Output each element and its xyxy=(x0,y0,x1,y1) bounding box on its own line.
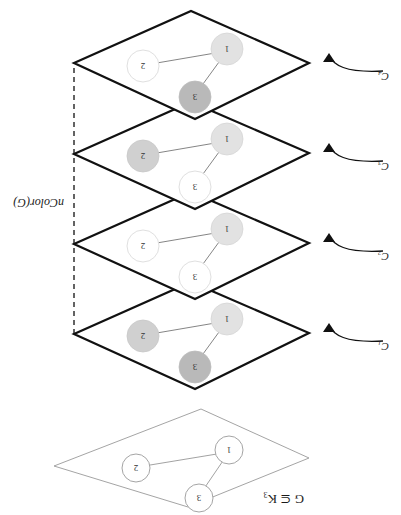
layer-C3-node-2-label: 2 xyxy=(141,151,146,161)
layer-C3-node-1-label: 1 xyxy=(225,134,230,144)
layer-C2: 3 1 2 xyxy=(74,192,383,299)
layer-C2-arrow-shaft xyxy=(329,235,383,251)
ncolor-bracket-label: nColor(G) xyxy=(13,195,64,210)
layer-C3-node-3-label: 3 xyxy=(192,182,197,192)
layer-C1-node-1-label: 1 xyxy=(225,314,230,324)
layer-C3: 3 1 2 xyxy=(74,102,383,209)
figure-canvas: 3 1 2 3 1 2 3 xyxy=(0,0,401,515)
plane-G-node-2-label: 2 xyxy=(134,463,139,473)
layer-C3-arrow-head xyxy=(323,143,335,152)
layer-C1-node-2-label: 2 xyxy=(141,331,146,341)
graph-title-label: G ⊆ K₃ xyxy=(263,491,304,507)
layer-C1-label: C₁ xyxy=(378,341,389,353)
layer-C2-label: C₂ xyxy=(378,251,389,263)
figure-svg: 3 1 2 3 1 2 3 xyxy=(0,0,401,515)
layer-C1-arrow-shaft xyxy=(329,325,383,341)
plane-G-node-1-label: 1 xyxy=(227,445,232,455)
layer-C4-node-3-label: 3 xyxy=(192,92,197,102)
layer-C2-node-1-label: 1 xyxy=(225,224,230,234)
layer-C2-node-2-label: 2 xyxy=(141,241,146,251)
layer-C1: 3 1 2 xyxy=(74,282,383,389)
layer-C3-label: C₃ xyxy=(378,161,389,173)
layer-C2-arrow-head xyxy=(323,233,335,242)
layer-C3-arrow-shaft xyxy=(329,145,383,161)
layer-C4-arrow-head xyxy=(323,53,335,62)
layer-C4: 3 1 2 xyxy=(74,11,383,119)
layer-C2-node-3-label: 3 xyxy=(192,272,197,282)
plane-G-node-3-label: 3 xyxy=(196,493,201,503)
layer-C1-node-3-label: 3 xyxy=(192,362,197,372)
layer-C4-arrow-shaft xyxy=(329,55,383,71)
layer-C4-node-2-label: 2 xyxy=(141,61,146,71)
layer-C4-label: C₄ xyxy=(378,71,389,83)
layer-C1-arrow-head xyxy=(323,323,335,332)
layer-C4-node-1-label: 1 xyxy=(225,44,230,54)
